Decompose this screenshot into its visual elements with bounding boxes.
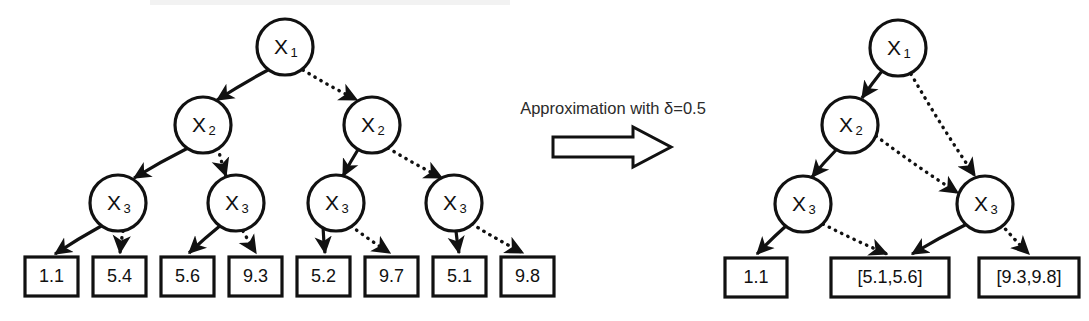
edge-l1-to-l2b-dotted bbox=[303, 70, 357, 100]
node-subscript: 3 bbox=[341, 201, 348, 216]
node-label: X bbox=[974, 192, 988, 215]
leaf-value: [5.1,5.6] bbox=[857, 267, 922, 287]
node-subscript: 3 bbox=[808, 202, 815, 217]
node-x3[interactable]: X3 bbox=[775, 176, 831, 232]
node-label: X bbox=[107, 191, 121, 214]
edge-r3a-to-rv1-solid bbox=[757, 225, 787, 254]
block-right-arrow-icon bbox=[553, 127, 671, 167]
leaf-value: [9.3,9.8] bbox=[996, 267, 1061, 287]
edge-l3d-to-lv7-solid bbox=[456, 231, 459, 253]
node-x1[interactable]: X1 bbox=[257, 19, 313, 75]
edge-r2-to-r3a-solid bbox=[812, 149, 837, 177]
node-x3[interactable]: X3 bbox=[426, 175, 482, 231]
node-x2[interactable]: X2 bbox=[175, 97, 231, 153]
node-subscript: 3 bbox=[241, 201, 248, 216]
leaf-node[interactable]: [9.3,9.8] bbox=[979, 258, 1079, 297]
approx-tree-leaves: 1.1[5.1,5.6][9.3,9.8] bbox=[725, 258, 1079, 297]
edge-l2a-to-l3a-solid bbox=[134, 148, 188, 178]
node-x3[interactable]: X3 bbox=[308, 175, 364, 231]
leaf-value: 9.8 bbox=[515, 266, 540, 286]
leaf-node[interactable]: 9.8 bbox=[501, 257, 554, 296]
leaf-value: 5.2 bbox=[311, 266, 336, 286]
edge-r1-to-r3b-dotted bbox=[911, 74, 975, 176]
node-subscript: 2 bbox=[208, 123, 215, 138]
node-x3[interactable]: X3 bbox=[957, 176, 1013, 232]
leaf-node[interactable]: 9.3 bbox=[229, 257, 282, 296]
leaf-node[interactable]: [5.1,5.6] bbox=[831, 258, 949, 297]
edge-r2-to-r3b-dotted bbox=[876, 136, 958, 193]
edge-l2b-to-l3c-solid bbox=[343, 148, 359, 176]
edge-l2a-to-l3b-dotted bbox=[218, 148, 226, 176]
approximation-caption-text: Approximation with δ=0.5 bbox=[520, 99, 706, 117]
edge-l3a-to-lv2-dotted bbox=[120, 231, 123, 253]
leaf-node[interactable]: 5.6 bbox=[161, 257, 214, 296]
leaf-value: 1.1 bbox=[39, 266, 64, 286]
edge-l2b-to-l3d-dotted bbox=[388, 148, 442, 178]
edge-l3a-to-lv1-solid bbox=[55, 225, 103, 254]
leaf-node[interactable]: 9.7 bbox=[365, 257, 418, 296]
node-label: X bbox=[225, 191, 239, 214]
edge-l3c-to-lv6-dotted bbox=[351, 226, 390, 253]
node-label: X bbox=[192, 113, 206, 136]
node-label: X bbox=[839, 113, 853, 136]
node-label: X bbox=[361, 113, 375, 136]
transformation-caption: Approximation with δ=0.5 bbox=[520, 99, 706, 167]
node-subscript: 3 bbox=[990, 202, 997, 217]
leaf-node[interactable]: 1.1 bbox=[25, 257, 78, 296]
leaf-value: 5.4 bbox=[107, 266, 132, 286]
edge-r1-to-r2-solid bbox=[862, 71, 882, 98]
node-subscript: 1 bbox=[290, 45, 297, 60]
edge-l3b-to-lv4-dotted bbox=[243, 231, 256, 253]
edge-l3d-to-lv8-dotted bbox=[472, 224, 523, 253]
leaf-value: 5.6 bbox=[175, 266, 200, 286]
leaf-node[interactable]: 5.1 bbox=[433, 257, 486, 296]
node-x3[interactable]: X3 bbox=[90, 175, 146, 231]
node-subscript: 1 bbox=[903, 46, 910, 61]
node-subscript: 2 bbox=[377, 123, 384, 138]
node-subscript: 2 bbox=[855, 123, 862, 138]
node-x2[interactable]: X2 bbox=[344, 97, 400, 153]
exact-tree-leaves: 1.15.45.69.35.29.75.19.8 bbox=[25, 257, 554, 296]
node-subscript: 3 bbox=[459, 201, 466, 216]
node-x2[interactable]: X2 bbox=[822, 97, 878, 153]
node-subscript: 3 bbox=[123, 201, 130, 216]
edge-l1-to-l2a-solid bbox=[217, 70, 268, 100]
approx-tree-nodes: X1X2X3X3 bbox=[775, 20, 1013, 232]
leaf-value: 5.1 bbox=[447, 266, 472, 286]
node-label: X bbox=[325, 191, 339, 214]
leaf-value: 1.1 bbox=[743, 267, 768, 287]
leaf-node[interactable]: 5.4 bbox=[93, 257, 146, 296]
node-label: X bbox=[887, 36, 901, 59]
node-x3[interactable]: X3 bbox=[208, 175, 264, 231]
edge-l3b-to-lv3-solid bbox=[189, 225, 221, 253]
node-label: X bbox=[792, 192, 806, 215]
leaf-node[interactable]: 5.2 bbox=[297, 257, 350, 296]
edge-r3b-to-rv3-dotted bbox=[1001, 224, 1029, 254]
leaf-value: 9.3 bbox=[243, 266, 268, 286]
node-label: X bbox=[443, 191, 457, 214]
edge-r3b-to-rv2-solid bbox=[912, 224, 967, 254]
tree-diagram-svg: X1X2X2X3X3X3X3 1.15.45.69.35.29.75.19.8 … bbox=[0, 0, 1089, 321]
edge-r3a-to-rv2-dotted bbox=[823, 224, 887, 254]
exact-tree-nodes: X1X2X2X3X3X3X3 bbox=[90, 19, 482, 231]
node-label: X bbox=[274, 35, 288, 58]
figure-canvas: X1X2X2X3X3X3X3 1.15.45.69.35.29.75.19.8 … bbox=[0, 0, 1089, 321]
leaf-value: 9.7 bbox=[379, 266, 404, 286]
node-x1[interactable]: X1 bbox=[870, 20, 926, 76]
leaf-node[interactable]: 1.1 bbox=[725, 258, 787, 297]
